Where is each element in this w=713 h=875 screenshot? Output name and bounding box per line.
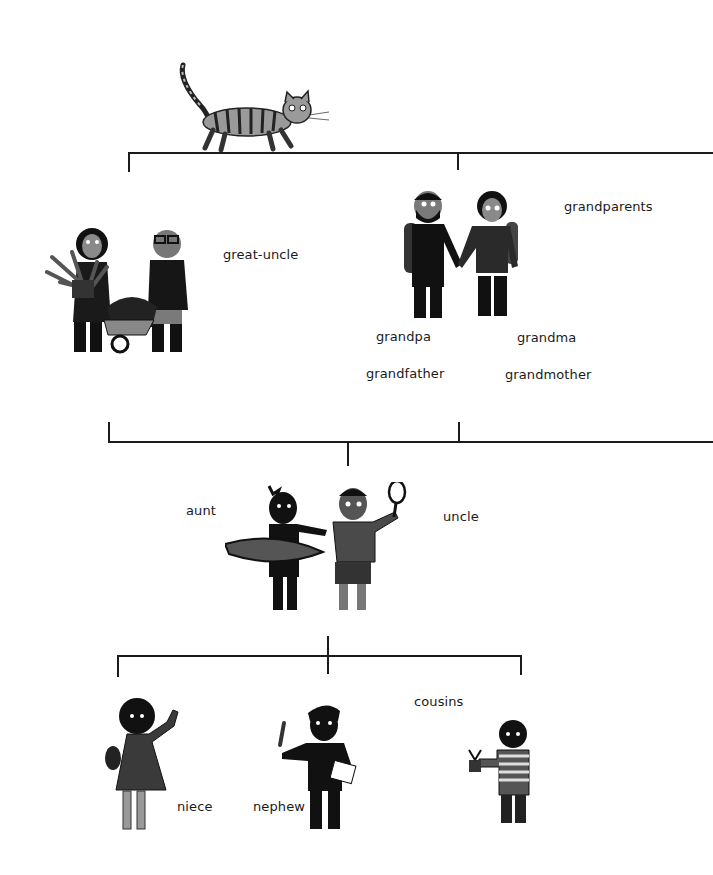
tree-line-level2-horizontal bbox=[108, 441, 713, 443]
tree-line-level2-right-rise bbox=[458, 422, 460, 443]
label-grandmother: grandmother bbox=[505, 367, 591, 382]
label-grandpa: grandpa bbox=[376, 329, 431, 344]
label-grandma: grandma bbox=[517, 330, 576, 345]
great-uncle-couple-icon bbox=[42, 222, 192, 357]
label-uncle: uncle bbox=[443, 509, 479, 524]
tree-line-level3-horizontal bbox=[117, 655, 522, 657]
cousin-icon bbox=[465, 718, 535, 826]
tree-line-level1-mid-drop bbox=[457, 152, 459, 170]
cat-illustration bbox=[175, 60, 335, 155]
aunt-uncle-illustration bbox=[225, 482, 410, 617]
label-grandparents: grandparents bbox=[564, 199, 653, 214]
tree-line-level3-right-drop bbox=[520, 655, 522, 675]
grandparents-illustration bbox=[400, 188, 525, 328]
tree-line-level3-left-drop bbox=[117, 655, 119, 677]
label-great-uncle: great-uncle bbox=[223, 247, 298, 262]
aunt-uncle-icon bbox=[225, 482, 410, 617]
grandparents-icon bbox=[400, 188, 525, 328]
label-grandfather: grandfather bbox=[366, 366, 444, 381]
label-nephew: nephew bbox=[253, 799, 305, 814]
cousin-illustration bbox=[465, 718, 535, 826]
cat-icon bbox=[175, 60, 335, 155]
label-aunt: aunt bbox=[186, 503, 216, 518]
label-cousins: cousins bbox=[414, 694, 463, 709]
tree-line-level2-center-drop bbox=[347, 441, 349, 466]
great-uncle-couple-illustration bbox=[42, 222, 192, 357]
niece-icon bbox=[105, 696, 185, 834]
tree-line-level1-left-drop bbox=[128, 152, 130, 172]
label-niece: niece bbox=[177, 799, 213, 814]
niece-illustration bbox=[105, 696, 185, 834]
tree-line-level3-center bbox=[327, 636, 329, 674]
tree-line-level2-left-rise bbox=[108, 422, 110, 443]
